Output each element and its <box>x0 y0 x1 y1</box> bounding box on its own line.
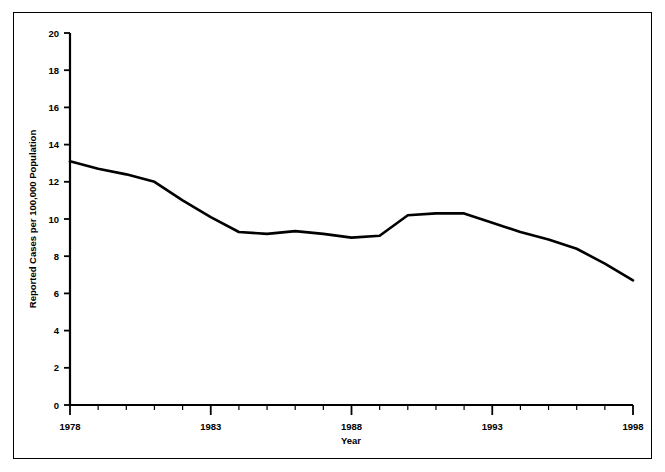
data-series-line <box>70 161 633 280</box>
x-axis-tick-labels: 19781983198819931998 <box>59 421 643 432</box>
y-tick-label: 18 <box>48 65 59 76</box>
y-tick-label: 4 <box>54 325 60 336</box>
y-tick-label: 2 <box>54 362 59 373</box>
line-chart: 02468101214161820 19781983198819931998 Y… <box>0 0 665 472</box>
x-tick-label: 1993 <box>482 421 503 432</box>
chart-figure: 02468101214161820 19781983198819931998 Y… <box>0 0 665 472</box>
y-axis-tick-labels: 02468101214161820 <box>48 28 59 411</box>
x-tick-label: 1988 <box>341 421 362 432</box>
y-tick-label: 14 <box>48 139 59 150</box>
y-axis-title: Reported Cases per 100,000 Population <box>27 130 38 309</box>
x-tick-label: 1978 <box>59 421 80 432</box>
y-tick-label: 12 <box>48 176 59 187</box>
x-tick-label: 1998 <box>622 421 643 432</box>
y-tick-label: 20 <box>48 28 59 39</box>
x-tick-label: 1983 <box>200 421 221 432</box>
x-axis-title: Year <box>341 435 361 446</box>
y-tick-label: 0 <box>54 400 59 411</box>
y-tick-label: 16 <box>48 102 59 113</box>
y-tick-label: 10 <box>48 214 59 225</box>
y-tick-label: 6 <box>54 288 59 299</box>
y-tick-label: 8 <box>54 251 59 262</box>
